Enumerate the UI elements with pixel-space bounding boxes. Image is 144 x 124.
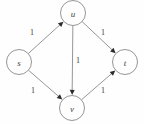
graph-canvas: 1 1 1 1 1 s u v t — [0, 0, 144, 124]
edge-u-to-v — [70, 26, 75, 96]
edge-weight-s-to-v: 1 — [31, 86, 35, 95]
node-u-label: u — [71, 9, 76, 19]
edge-label-group: 1 1 1 1 1 — [30, 28, 105, 95]
edge-weight-u-to-v: 1 — [76, 56, 80, 65]
node-group: s u v t — [7, 1, 138, 121]
edge-u-to-v-arrowhead — [70, 90, 75, 95]
node-t: t — [113, 50, 138, 75]
edge-s-to-u — [28, 22, 63, 54]
edge-weight-u-to-t: 1 — [101, 28, 105, 37]
node-u: u — [61, 1, 86, 26]
edge-u-to-t-line — [82, 22, 113, 52]
node-s-label: s — [17, 58, 21, 68]
edge-u-to-v-line — [72, 26, 73, 93]
node-v: v — [60, 96, 85, 121]
edge-weight-v-to-t: 1 — [101, 86, 105, 95]
directed-graph-figure: 1 1 1 1 1 s u v t — [0, 0, 144, 124]
edge-weight-s-to-u: 1 — [30, 28, 34, 37]
node-v-label: v — [70, 104, 74, 114]
edge-v-to-t-line — [81, 72, 113, 99]
node-s: s — [7, 50, 32, 75]
edge-v-to-t — [81, 70, 115, 99]
edge-u-to-t — [82, 22, 116, 54]
